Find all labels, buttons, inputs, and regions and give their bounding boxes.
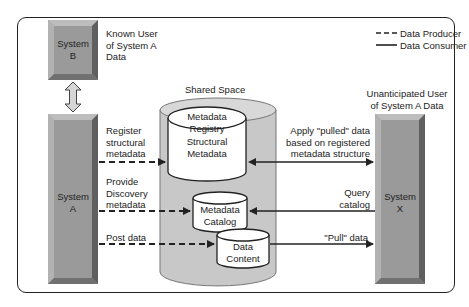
system-a-label: System A	[48, 191, 98, 214]
data-content-label: Data Content	[217, 241, 269, 264]
system-b-label: System B	[48, 38, 98, 61]
register-label: Register structural metadata	[106, 125, 146, 160]
apply-label: Apply "pulled" data based on registered …	[278, 125, 370, 160]
post-label: Post data	[106, 232, 146, 244]
legend-producer-label: Data Producer	[400, 28, 461, 40]
shared-space-title: Shared Space	[185, 84, 245, 96]
pull-label: "Pull" data	[300, 232, 368, 244]
system-x-label: System X	[375, 191, 425, 214]
legend-consumer-label: Data Consumer	[400, 40, 467, 52]
discovery-label: Provide Discovery metadata	[106, 176, 148, 211]
structural-metadata-label: Structural Metadata	[168, 136, 246, 159]
registry-label: Metadata Registry	[168, 111, 246, 134]
system-x-caption: Unanticipated User of System A Data	[355, 88, 459, 111]
query-label: Query catalog	[320, 187, 370, 210]
system-b-caption: Known User of System A Data	[106, 28, 158, 63]
bidirectional-arrow-icon	[65, 82, 81, 112]
metadata-catalog-label: Metadata Catalog	[193, 204, 247, 227]
